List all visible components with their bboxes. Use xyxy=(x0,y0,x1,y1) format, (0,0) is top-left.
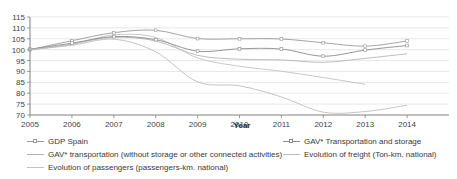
data-point-marker xyxy=(364,45,367,48)
data-point-marker xyxy=(406,44,409,47)
data-point-marker xyxy=(280,38,283,41)
legend-swatch-gav-transport-storage xyxy=(283,138,300,145)
y-tick-label: 110 xyxy=(12,24,25,33)
chart-legend: GDP Spain GAV* transportation (without s… xyxy=(0,132,457,179)
data-series-group xyxy=(29,29,409,113)
series-0 xyxy=(29,29,409,51)
y-tick-label: 105 xyxy=(12,35,26,44)
x-tick-label: 2009 xyxy=(189,120,207,129)
x-tick-label: 2008 xyxy=(147,120,165,129)
legend-label-passengers: Evolution of passengers (passengers-km. … xyxy=(48,163,228,172)
chart-page: 707580859095100105110115 200520062007200… xyxy=(0,0,457,179)
data-point-marker xyxy=(196,37,199,40)
data-point-marker xyxy=(71,42,74,45)
x-tick-label: 2011 xyxy=(273,120,291,129)
data-point-marker xyxy=(196,50,199,53)
legend-label-gav-transport-storage: GAV* Transportation and storage xyxy=(304,137,421,146)
x-tick-label: 2006 xyxy=(63,120,81,129)
x-tick-label: 2012 xyxy=(314,120,332,129)
legend-label-freight: Evolution of freight (Ton-km. national) xyxy=(304,150,437,159)
data-point-marker xyxy=(322,55,325,58)
y-tick-label: 70 xyxy=(16,111,25,120)
data-point-marker xyxy=(112,31,115,34)
line-chart-svg: 707580859095100105110115 200520062007200… xyxy=(0,0,457,132)
x-tick-label: 2013 xyxy=(356,120,374,129)
data-point-marker xyxy=(280,48,283,51)
legend-swatch-freight xyxy=(283,151,300,158)
data-point-marker xyxy=(238,37,241,40)
y-tick-label: 90 xyxy=(16,67,25,76)
y-tick-label: 85 xyxy=(16,78,25,87)
series-4 xyxy=(30,39,407,113)
data-point-marker xyxy=(154,29,157,32)
legend-column-right: GAV* Transportation and storage Evolutio… xyxy=(283,135,437,161)
x-axis-ticks: 2005200620072008200920102011201220132014 xyxy=(21,115,416,129)
legend-item-gav-transport-storage[interactable]: GAV* Transportation and storage xyxy=(283,135,437,148)
y-tick-label: 80 xyxy=(16,89,25,98)
y-axis-ticks: 707580859095100105110115 xyxy=(12,13,30,120)
legend-swatch-passengers xyxy=(27,164,44,171)
data-point-marker xyxy=(238,47,241,50)
y-tick-label: 95 xyxy=(16,57,25,66)
legend-item-gav-transportation[interactable]: GAV* transportation (without storage or … xyxy=(27,148,282,161)
y-tick-label: 115 xyxy=(12,13,25,22)
data-point-marker xyxy=(406,40,409,43)
x-tick-label: 2005 xyxy=(21,120,39,129)
x-axis-title: Year xyxy=(234,121,251,130)
x-tick-label: 2014 xyxy=(398,120,416,129)
x-tick-label: 2007 xyxy=(105,120,123,129)
data-point-marker xyxy=(364,49,367,52)
legend-label-gdp-spain: GDP Spain xyxy=(48,137,88,146)
y-tick-label: 75 xyxy=(16,100,25,109)
data-point-marker xyxy=(112,35,115,38)
data-point-marker xyxy=(322,41,325,44)
legend-item-freight[interactable]: Evolution of freight (Ton-km. national) xyxy=(283,148,437,161)
y-tick-label: 100 xyxy=(12,46,26,55)
legend-item-passengers[interactable]: Evolution of passengers (passengers-km. … xyxy=(27,161,282,174)
plot-area: 707580859095100105110115 200520062007200… xyxy=(0,0,457,132)
legend-column-left: GDP Spain GAV* transportation (without s… xyxy=(27,135,282,174)
legend-item-gdp-spain[interactable]: GDP Spain xyxy=(27,135,282,148)
legend-swatch-gav-transportation xyxy=(27,151,44,158)
gridlines xyxy=(30,17,449,104)
data-point-marker xyxy=(154,38,157,41)
legend-label-gav-transportation: GAV* transportation (without storage or … xyxy=(48,150,282,159)
legend-swatch-gdp-spain xyxy=(27,138,44,145)
